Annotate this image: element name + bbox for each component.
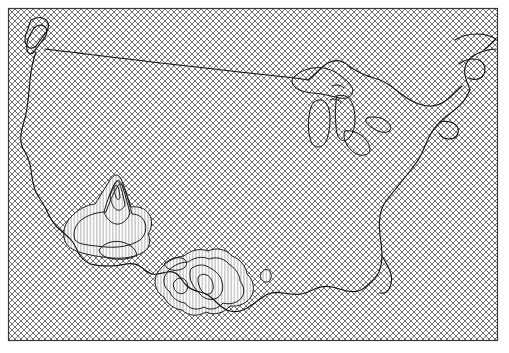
map-figure — [0, 0, 509, 353]
map-canvas — [0, 0, 509, 353]
